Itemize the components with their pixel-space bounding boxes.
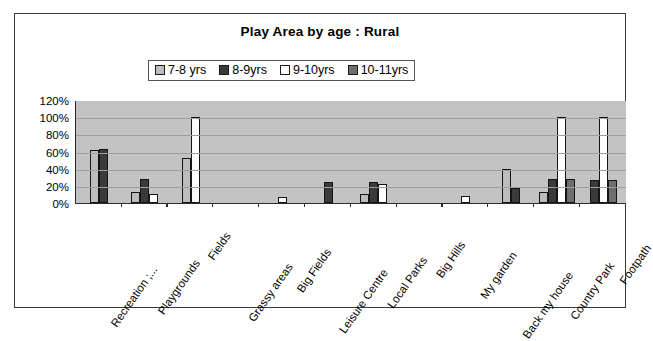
bar[interactable] xyxy=(131,192,140,203)
bar[interactable] xyxy=(360,194,369,203)
bar[interactable] xyxy=(502,169,511,203)
bar[interactable] xyxy=(557,117,566,203)
bar[interactable] xyxy=(461,196,470,203)
plot-background xyxy=(75,101,626,204)
y-tick-label: 100% xyxy=(40,112,69,124)
bar[interactable] xyxy=(90,150,99,203)
legend-label: 9-10yrs xyxy=(293,63,335,77)
bar[interactable] xyxy=(149,194,158,203)
legend-item-2[interactable]: 9-10yrs xyxy=(280,63,335,77)
y-tick-label: 40% xyxy=(46,164,69,176)
bar[interactable] xyxy=(182,158,191,203)
plot-area xyxy=(75,101,626,204)
y-tick-label: 20% xyxy=(46,181,69,193)
legend-swatch-icon xyxy=(280,65,290,75)
x-axis-label: Recreation ;... xyxy=(108,264,159,330)
legend-label: 7-8 yrs xyxy=(168,63,206,77)
y-axis: 120%100%80%60%40%20%0% xyxy=(15,94,73,212)
chart-frame: Play Area by age : Rural 7-8 yrs8-9yrs9-… xyxy=(14,13,626,308)
y-tick-label: 80% xyxy=(46,129,69,141)
gridline xyxy=(76,187,626,188)
bar[interactable] xyxy=(590,180,599,203)
x-axis-label: Country Park xyxy=(568,260,616,322)
bar[interactable] xyxy=(191,117,200,203)
bar[interactable] xyxy=(278,197,287,203)
gridline xyxy=(76,118,626,119)
chart-legend: 7-8 yrs8-9yrs9-10yrs10-11yrs xyxy=(148,60,415,81)
bar[interactable] xyxy=(548,179,557,203)
bar[interactable] xyxy=(566,179,575,203)
x-axis-label: Leisure Centre xyxy=(337,267,390,336)
legend-swatch-icon xyxy=(219,65,229,75)
x-axis-label: My garden xyxy=(478,250,519,301)
x-axis-label: Playgrounds xyxy=(155,257,202,316)
gridline xyxy=(76,153,626,154)
x-axis-labels: Recreation ;...PlaygroundsFieldsGrassy a… xyxy=(75,205,626,305)
bar[interactable] xyxy=(140,179,149,203)
chart-title: Play Area by age : Rural xyxy=(15,24,625,39)
bar[interactable] xyxy=(599,117,608,203)
x-axis-label: Back my house xyxy=(520,269,575,340)
y-tick-label: 60% xyxy=(46,147,69,159)
bar[interactable] xyxy=(99,149,108,203)
bar[interactable] xyxy=(369,182,378,203)
x-axis-label: Fields xyxy=(206,230,233,262)
legend-swatch-icon xyxy=(155,65,165,75)
bar[interactable] xyxy=(539,192,548,203)
legend-swatch-icon xyxy=(348,65,358,75)
legend-item-0[interactable]: 7-8 yrs xyxy=(155,63,206,77)
y-tick-label: 0% xyxy=(52,198,69,210)
x-axis-label: Big Fields xyxy=(295,246,334,294)
x-axis-label: Footpath xyxy=(617,242,653,286)
legend-label: 8-9yrs xyxy=(232,63,267,77)
gridline xyxy=(76,135,626,136)
legend-label: 10-11yrs xyxy=(361,63,409,77)
bar[interactable] xyxy=(511,188,520,203)
legend-item-3[interactable]: 10-11yrs xyxy=(348,63,409,77)
gridline xyxy=(76,170,626,171)
x-axis-label: Local Parks xyxy=(385,254,429,310)
legend-item-1[interactable]: 8-9yrs xyxy=(219,63,267,77)
bar[interactable] xyxy=(324,182,333,203)
x-axis-label: Grassy areas xyxy=(246,261,295,324)
bar[interactable] xyxy=(608,180,617,203)
y-tick-label: 120% xyxy=(40,95,69,107)
x-axis-label: Big Hills xyxy=(434,239,468,280)
